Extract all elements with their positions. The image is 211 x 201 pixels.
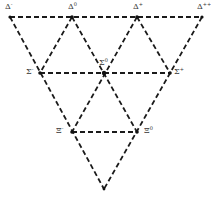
edge-right-outer bbox=[104, 17, 202, 189]
label-delta-zero: Δ0 bbox=[68, 3, 77, 11]
label-xi-minus: Ξ- bbox=[56, 127, 63, 135]
label-charge: ++ bbox=[203, 1, 211, 7]
label-symbol: Σ bbox=[99, 58, 105, 67]
edge-delta0-to-sigma-minus bbox=[40, 17, 72, 73]
label-sigma-minus: Σ- bbox=[26, 68, 33, 76]
label-symbol: Ξ bbox=[56, 126, 62, 135]
label-charge: + bbox=[180, 66, 184, 72]
label-symbol: Σ bbox=[174, 67, 180, 76]
label-charge: 0 bbox=[74, 1, 77, 7]
label-sigma-zero: Σ0 bbox=[99, 59, 108, 67]
node-sigma-zero bbox=[102, 71, 106, 75]
label-charge: + bbox=[139, 1, 143, 7]
label-delta-plusplus: Δ++ bbox=[197, 3, 211, 11]
label-charge: 0 bbox=[105, 57, 108, 63]
edge-left-outer bbox=[10, 17, 104, 189]
label-delta-minus: Δ- bbox=[5, 3, 12, 11]
node-xi-minus bbox=[70, 130, 74, 134]
edge-deltaplus-to-sigma-plus bbox=[137, 17, 170, 73]
label-sigma-plus: Σ+ bbox=[174, 68, 184, 76]
node-omega-minus bbox=[103, 188, 106, 191]
label-delta-plus: Δ+ bbox=[133, 3, 143, 11]
node-sigma-plus bbox=[168, 71, 172, 75]
label-symbol: Δ bbox=[68, 2, 74, 11]
label-charge: 0 bbox=[150, 125, 153, 131]
label-symbol: Δ bbox=[133, 2, 139, 11]
label-symbol: Σ bbox=[26, 67, 32, 76]
node-delta-plusplus bbox=[200, 15, 203, 18]
node-delta-minus bbox=[8, 15, 11, 18]
node-delta-plus bbox=[135, 15, 139, 19]
decuplet-diagram bbox=[0, 0, 211, 201]
node-xi-zero bbox=[135, 130, 139, 134]
label-symbol: Δ bbox=[5, 2, 11, 11]
label-xi-zero: Ξ0 bbox=[144, 127, 153, 135]
label-symbol: Ξ bbox=[144, 126, 150, 135]
label-symbol: Δ bbox=[197, 2, 203, 11]
node-delta-zero bbox=[70, 15, 74, 19]
node-sigma-minus bbox=[38, 71, 42, 75]
